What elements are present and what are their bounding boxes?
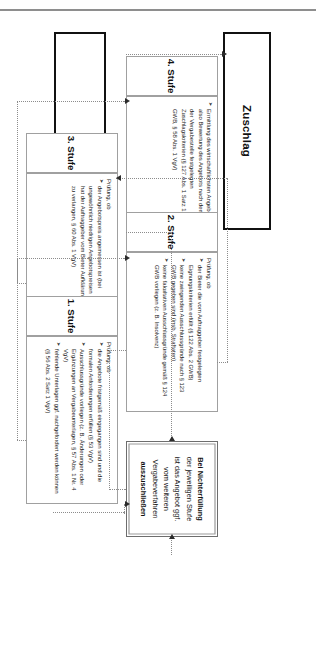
note-line-2: der jeweiligen Stufe bbox=[185, 457, 194, 522]
stage-bullet: Ausschlussgründe vorliegen (z. B. Änderu… bbox=[61, 342, 86, 498]
stage-bullet: keine fakultativen Ausschlussgründe gemä… bbox=[152, 258, 169, 406]
endpoint-zuschlag: Zuschlag bbox=[223, 32, 271, 230]
stage-bullets-stufe-3: der Angebotspreis angemessen ist (bei un… bbox=[70, 179, 104, 303]
note-line-1: Bei Nichterfüllung bbox=[196, 457, 205, 521]
connector-stufe3-to-stufe4-v2 bbox=[17, 101, 125, 102]
stage-bullet: der Angebotspreis angemessen ist (bei un… bbox=[70, 179, 104, 303]
connector-note-left-h bbox=[171, 232, 172, 440]
note-box-nichterfuellung: Bei Nichterfüllung der jeweiligen Stufe … bbox=[126, 441, 218, 537]
arrow-note-right bbox=[169, 534, 175, 539]
stage-title-stufe-4: 4. Stufe bbox=[126, 56, 218, 96]
note-line-5: Vergabeverfahren bbox=[151, 460, 160, 519]
connector-stufe2-to-stufe3-h bbox=[227, 178, 228, 362]
connector-note-right-h bbox=[171, 537, 172, 555]
stage-lead-stufe-3: Prüfung, ob bbox=[105, 179, 113, 303]
stage-bullets-stufe-4: Ermittlung des wirtschaftlichsten Angebo… bbox=[171, 102, 213, 226]
stage-bullet: keine zwingenden Ausschlussgründe nach §… bbox=[170, 258, 187, 406]
arrow-to-stufe4 bbox=[125, 98, 130, 104]
connector-angebotseingang-to-stufe1 bbox=[53, 512, 125, 513]
connector-note-left-v bbox=[126, 232, 172, 233]
stage-bullets-stufe-2: der Bieter die vom Auftraggeber festgele… bbox=[152, 258, 203, 406]
arrow-to-zuschlag bbox=[222, 51, 227, 57]
connector-stufe3-to-stufe4-h bbox=[17, 101, 18, 283]
endpoint-zuschlag-label: Zuschlag bbox=[225, 34, 269, 228]
connector-note-branch-1 bbox=[109, 350, 126, 351]
stage-body-stufe-1: Prüfung, ob die Angebote fristgemäß eing… bbox=[26, 336, 118, 504]
connector-stufe3-to-stufe4-v1 bbox=[17, 283, 26, 284]
page-edge-rule bbox=[0, 9, 316, 11]
connector-stufe1-to-stufe2-v2 bbox=[17, 258, 125, 259]
note-line-4: vom weiteren bbox=[162, 467, 171, 511]
stage-title-stufe-3: 3. Stufe bbox=[26, 133, 118, 173]
note-line-6: auszuschließen bbox=[139, 461, 148, 516]
connector-note-to-stages-v bbox=[110, 489, 126, 490]
connector-note-to-stages-h bbox=[109, 350, 110, 490]
connector-stufe1-to-stufe2-v1 bbox=[17, 440, 26, 441]
note-line-3: ist das Angebot ggf. bbox=[173, 457, 182, 522]
arrow-to-stufe2 bbox=[125, 255, 130, 261]
arrow-note-left bbox=[169, 436, 175, 441]
stage-bullet: fehlende Unterlagen ggf. nachgefordert w… bbox=[44, 342, 61, 498]
note-box-text: Bei Nichterfüllung der jeweiligen Stufe … bbox=[138, 453, 207, 526]
stage-lead-stufe-2: Prüfung, ob bbox=[205, 258, 213, 406]
stage-bullet: die Angebote fristgemäß eingegangen sind… bbox=[87, 342, 104, 498]
stage-body-stufe-2: Prüfung, ob der Bieter die vom Auftragge… bbox=[126, 252, 218, 412]
connector-stufe2-to-stufe3-v2 bbox=[116, 178, 228, 179]
flowchart-canvas: Zuschlag Angebotseingang Bei Nichterfüll… bbox=[0, 0, 328, 646]
stage-body-stufe-3: Prüfung, ob der Angebotspreis angemessen… bbox=[26, 173, 118, 309]
stage-bullets-stufe-1: die Angebote fristgemäß eingegangen sind… bbox=[44, 342, 104, 498]
stage-bullet: Ermittlung des wirtschaftlichsten Angebo… bbox=[171, 102, 213, 226]
arrow-to-stufe3 bbox=[116, 175, 121, 181]
connector-stufe2-to-stufe3-v1 bbox=[217, 362, 228, 363]
connector-stufe4-to-zuschlag-v bbox=[126, 54, 222, 55]
connector-stufe1-to-stufe2-h bbox=[17, 258, 18, 440]
arrow-to-stufe1 bbox=[125, 501, 130, 507]
stage-bullet: der Bieter die vom Auftraggeber festgele… bbox=[187, 258, 204, 406]
stage-title-stufe-1: 1. Stufe bbox=[26, 296, 118, 336]
